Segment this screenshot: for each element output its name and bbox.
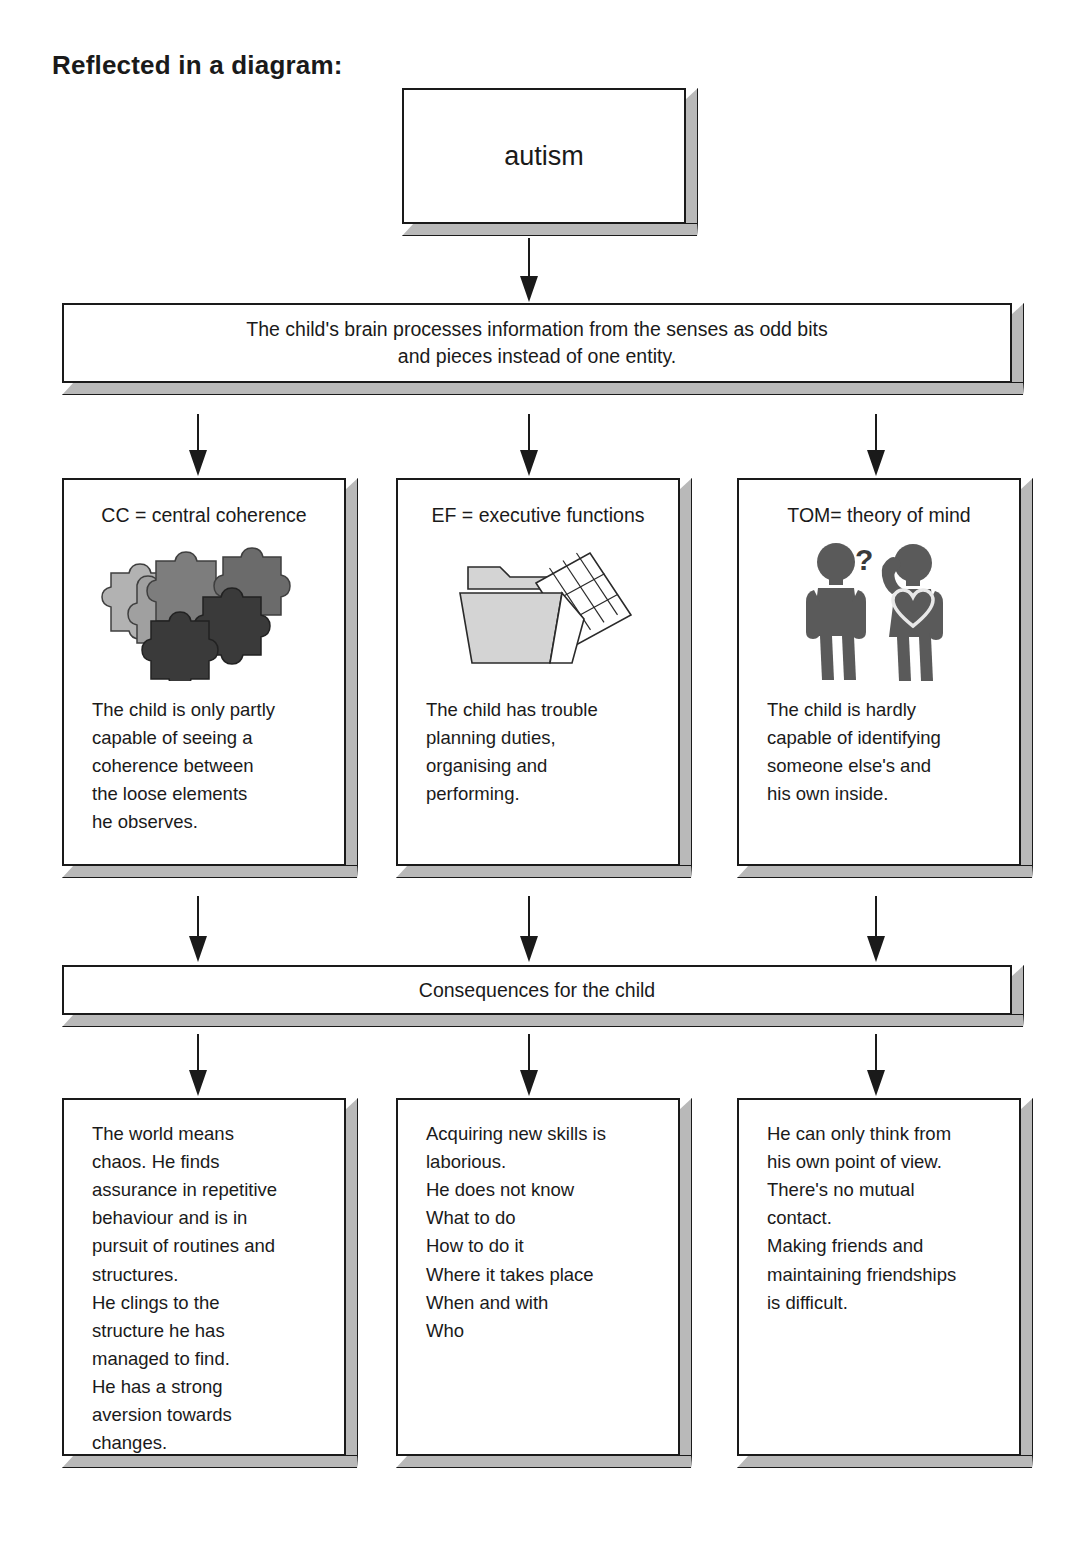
bevel-right — [679, 1098, 692, 1468]
arrow-head — [189, 450, 207, 476]
card-body-outcome-1: The world means chaos. He finds assuranc… — [92, 1120, 336, 1457]
card-body-tom: The child is hardly capable of identifyi… — [767, 696, 1007, 808]
arrow-head — [520, 936, 538, 962]
arrow-ef-to-consequences — [519, 896, 539, 962]
bevel-right — [1011, 303, 1024, 395]
arrow-shaft — [197, 896, 199, 938]
arrow-head — [189, 936, 207, 962]
bevel-bottom — [402, 223, 698, 236]
card-body-ef: The child has trouble planning duties, o… — [426, 696, 666, 808]
bevel-right — [679, 478, 692, 878]
node-autism-label: autism — [402, 88, 686, 224]
card-outcome-3: He can only think from his own point of … — [737, 1098, 1033, 1468]
arrow-autism-to-senses — [519, 238, 539, 302]
bevel-right — [345, 1098, 358, 1468]
arrow-consequences-to-outcome-2 — [519, 1034, 539, 1096]
arrow-consequences-to-outcome-3 — [866, 1034, 886, 1096]
card-title-ef: EF = executive functions — [398, 504, 678, 527]
bevel-right — [345, 478, 358, 878]
bevel-bottom — [62, 865, 358, 878]
arrow-tom-to-consequences — [866, 896, 886, 962]
arrow-shaft — [197, 1034, 199, 1072]
arrow-head — [189, 1070, 207, 1096]
arrow-shaft — [875, 414, 877, 452]
arrow-consequences-to-outcome-1 — [188, 1034, 208, 1096]
two-people-icon: ? — [739, 536, 1019, 686]
node-autism: autism — [402, 88, 698, 236]
arrow-head — [867, 936, 885, 962]
card-title-tom: TOM= theory of mind — [739, 504, 1019, 527]
node-consequences-label: Consequences for the child — [62, 965, 1012, 1015]
svg-text:?: ? — [855, 543, 873, 576]
bevel-bottom — [396, 1455, 692, 1468]
arrow-shaft — [528, 896, 530, 938]
arrow-shaft — [528, 414, 530, 452]
node-senses: The child's brain processes information … — [62, 303, 1024, 395]
card-body-outcome-2: Acquiring new skills is laborious. He do… — [426, 1120, 670, 1345]
arrow-head — [867, 450, 885, 476]
card-outcome-2: Acquiring new skills is laborious. He do… — [396, 1098, 692, 1468]
card-outcome-1: The world means chaos. He finds assuranc… — [62, 1098, 358, 1468]
arrow-senses-to-ef — [519, 414, 539, 476]
arrow-shaft — [528, 1034, 530, 1072]
bevel-bottom — [396, 865, 692, 878]
card-body-outcome-3: He can only think from his own point of … — [767, 1120, 1011, 1317]
card-central-coherence: CC = central coherence — [62, 478, 358, 878]
bevel-bottom — [737, 865, 1033, 878]
card-executive-functions: EF = executive functions The child ha — [396, 478, 692, 878]
arrow-shaft — [197, 414, 199, 452]
bevel-right — [1020, 478, 1033, 878]
card-title-cc: CC = central coherence — [64, 504, 344, 527]
puzzle-pieces-icon — [64, 536, 344, 686]
arrow-cc-to-consequences — [188, 896, 208, 962]
arrow-head — [867, 1070, 885, 1096]
bevel-bottom — [62, 382, 1024, 395]
bevel-right — [1020, 1098, 1033, 1468]
node-senses-label: The child's brain processes information … — [62, 303, 1012, 383]
arrow-senses-to-tom — [866, 414, 886, 476]
arrow-shaft — [875, 896, 877, 938]
page-title: Reflected in a diagram: — [52, 50, 343, 81]
arrow-shaft — [875, 1034, 877, 1072]
card-body-cc: The child is only partly capable of seei… — [92, 696, 332, 837]
bevel-right — [685, 88, 698, 236]
arrow-head — [520, 276, 538, 302]
bevel-bottom — [737, 1455, 1033, 1468]
arrow-head — [520, 450, 538, 476]
arrow-head — [520, 1070, 538, 1096]
node-consequences: Consequences for the child — [62, 965, 1024, 1027]
bevel-bottom — [62, 1014, 1024, 1027]
card-theory-of-mind: TOM= theory of mind ? — [737, 478, 1033, 878]
arrow-shaft — [528, 238, 530, 278]
folder-schedule-icon — [398, 536, 678, 686]
arrow-senses-to-cc — [188, 414, 208, 476]
